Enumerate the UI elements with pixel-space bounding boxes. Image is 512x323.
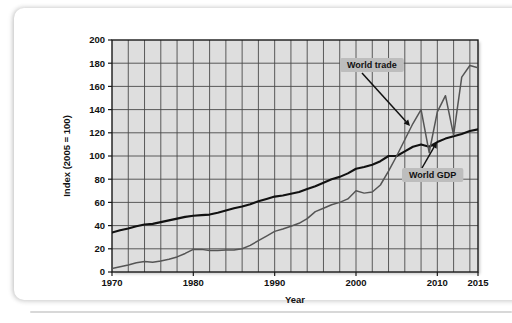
x-axis-ticks: 197019801990200020102015 [101, 272, 489, 288]
y-tick-label: 120 [89, 127, 105, 138]
y-tick-label: 160 [89, 81, 105, 92]
y-tick-label: 200 [89, 34, 105, 45]
y-tick-label: 20 [94, 243, 105, 254]
x-tick-label: 2015 [467, 277, 489, 288]
y-tick-label: 100 [89, 150, 105, 161]
screenshot-page: 020406080100120140160180200 197019801990… [0, 0, 512, 323]
world-gdp-label: World GDP [409, 170, 456, 180]
y-axis-ticks: 020406080100120140160180200 [89, 34, 112, 277]
y-tick-label: 180 [89, 58, 105, 69]
x-tick-label: 1970 [101, 277, 122, 288]
x-tick-label: 1980 [183, 277, 204, 288]
y-tick-label: 0 [100, 266, 105, 277]
x-axis-title: Year [285, 294, 305, 305]
plot-area [112, 40, 478, 272]
x-tick-label: 2000 [345, 277, 366, 288]
y-axis-title: Index (2005 = 100) [61, 115, 72, 197]
chart-figure: 020406080100120140160180200 197019801990… [0, 0, 512, 323]
x-tick-label: 1990 [264, 277, 285, 288]
y-tick-label: 80 [94, 174, 105, 185]
y-tick-label: 140 [89, 104, 105, 115]
y-tick-label: 40 [94, 220, 105, 231]
world-trade-label: World trade [347, 60, 397, 70]
y-tick-label: 60 [94, 197, 105, 208]
x-tick-label: 2010 [427, 277, 448, 288]
